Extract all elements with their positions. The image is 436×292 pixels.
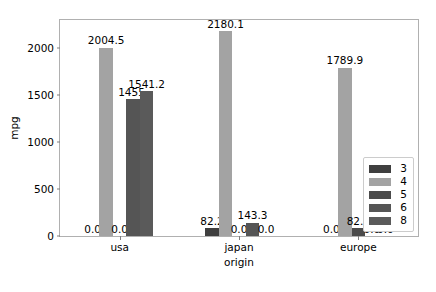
- y-tick-mark: [57, 236, 61, 237]
- bar-value-label: 143.3: [237, 210, 267, 221]
- y-tick-label: 0: [47, 231, 54, 242]
- legend-item[interactable]: 6: [369, 201, 407, 214]
- bar-chart-figure: mpg origin 0500100015002000 usajapaneuro…: [0, 0, 436, 292]
- y-tick-label: 2000: [27, 43, 54, 54]
- legend-swatch: [369, 165, 391, 173]
- legend-swatch: [369, 204, 391, 212]
- legend-swatch: [369, 217, 391, 225]
- legend-label: 4: [400, 176, 407, 187]
- y-tick-label: 1500: [27, 90, 54, 101]
- bar-value-label: 1541.2: [128, 79, 165, 90]
- y-tick-mark: [57, 189, 61, 190]
- bar-value-label: 2004.5: [88, 35, 125, 46]
- bar[interactable]: 1455.: [126, 99, 140, 236]
- x-tick-mark: [358, 236, 359, 240]
- x-tick-label: europe: [340, 242, 377, 253]
- legend-item[interactable]: 3: [369, 162, 407, 175]
- bar[interactable]: 1789.9: [338, 68, 352, 236]
- legend-label: 3: [400, 163, 407, 174]
- bar[interactable]: 2180.1: [219, 31, 233, 236]
- legend-label: 8: [400, 215, 407, 226]
- bar[interactable]: 2004.5: [99, 48, 113, 236]
- y-axis-label: mpg: [8, 116, 20, 140]
- y-tick-mark: [57, 95, 61, 96]
- bar-value-label: 0.0: [258, 224, 275, 235]
- y-tick-label: 500: [34, 184, 54, 195]
- bar[interactable]: 1541.2: [140, 91, 154, 236]
- legend-item[interactable]: 8: [369, 214, 407, 227]
- y-tick-label: 1000: [27, 137, 54, 148]
- legend-label: 6: [400, 202, 407, 213]
- legend-item[interactable]: 5: [369, 188, 407, 201]
- x-tick-label: usa: [110, 242, 129, 253]
- bar-value-label: 1789.9: [326, 55, 363, 66]
- chart-legend[interactable]: 34568: [363, 157, 414, 232]
- y-tick-mark: [57, 142, 61, 143]
- x-tick-mark: [239, 236, 240, 240]
- bar[interactable]: 82.2: [205, 228, 219, 236]
- legend-swatch: [369, 178, 391, 186]
- legend-label: 5: [400, 189, 407, 200]
- x-tick-mark: [120, 236, 121, 240]
- x-tick-label: japan: [224, 242, 253, 253]
- x-axis-label: origin: [224, 256, 254, 268]
- plot-area: 0500100015002000 usajapaneurope 0.02004.…: [59, 19, 419, 237]
- y-tick-mark: [57, 48, 61, 49]
- bar-value-label: 2180.1: [207, 19, 244, 30]
- legend-item[interactable]: 4: [369, 175, 407, 188]
- legend-swatch: [369, 191, 391, 199]
